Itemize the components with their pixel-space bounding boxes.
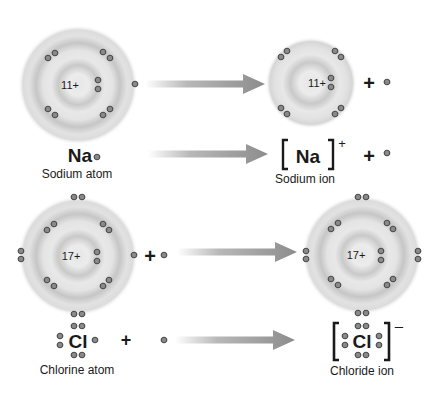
sodium-ion-model: 11+ <box>265 37 357 129</box>
released-electron <box>384 150 390 156</box>
unpaired-electron <box>92 337 98 343</box>
gained-electron <box>161 337 167 343</box>
released-electron <box>384 79 390 85</box>
caption: Chlorine atom <box>40 363 115 377</box>
gained-electron <box>161 252 167 258</box>
reaction-arrow <box>177 242 297 262</box>
plus-sign: + <box>363 72 375 94</box>
sodium-ion-lewis: Na + Sodium ion <box>275 136 346 186</box>
plus-sign: + <box>121 330 132 350</box>
reaction-arrow <box>148 144 268 164</box>
chlorine-atom-model: 17+ <box>18 194 138 317</box>
left-bracket <box>334 323 339 360</box>
plus-sign: + <box>144 245 156 267</box>
ionic-bond-diagram: 11+ 11+ + Na Sodium atom Na <box>0 0 441 402</box>
nucleus-charge: 11+ <box>61 79 79 91</box>
sodium-atom-model: 11+ <box>18 25 138 145</box>
reaction-arrow <box>175 330 295 350</box>
chloride-ion-model: 17+ <box>302 194 422 316</box>
caption: Chloride ion <box>330 364 394 378</box>
element-symbol: Cl <box>69 331 88 352</box>
ion-charge: + <box>338 136 346 151</box>
reaction-arrow <box>145 74 265 94</box>
nucleus-charge: 11+ <box>308 77 326 89</box>
right-bracket <box>384 323 389 360</box>
sodium-atom-lewis: Na Sodium atom <box>42 145 113 181</box>
valence-electron <box>94 154 100 160</box>
element-symbol: Cl <box>353 331 372 352</box>
chloride-ion-lewis: Cl – Chloride ion <box>330 317 404 378</box>
caption: Sodium atom <box>42 167 113 181</box>
ion-charge: – <box>395 317 404 334</box>
chlorine-atom-lewis: Cl Chlorine atom <box>40 323 115 377</box>
left-bracket <box>283 140 288 169</box>
plus-sign: + <box>363 145 375 167</box>
caption: Sodium ion <box>275 172 335 186</box>
right-bracket <box>328 140 333 169</box>
nucleus-charge: 17+ <box>347 249 366 261</box>
nucleus-charge: 17+ <box>62 250 81 262</box>
element-symbol: Na <box>68 145 93 166</box>
element-symbol: Na <box>296 146 321 167</box>
